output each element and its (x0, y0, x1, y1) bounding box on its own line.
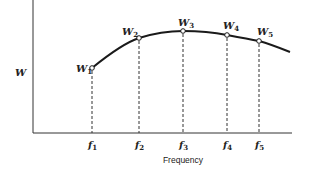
data-point (257, 39, 262, 44)
data-point (181, 29, 186, 34)
point-label: W3 (178, 17, 194, 30)
frequency-tick-label: f5 (254, 139, 264, 152)
point-label: W1 (76, 63, 92, 76)
point-label: W4 (223, 20, 239, 33)
frequency-tick-label: f3 (178, 139, 188, 152)
frequency-tick-label: f1 (87, 139, 97, 152)
y-axis-label: W (15, 67, 28, 78)
x-axis-label: Frequency (163, 155, 204, 165)
data-point (225, 33, 230, 38)
point-label: W5 (257, 26, 273, 39)
frequency-tick-label: f4 (222, 139, 232, 152)
frequency-tick-label: f2 (134, 139, 144, 152)
point-label: W2 (122, 26, 138, 39)
frequency-weight-diagram: W1f1W2f2W3f3W4f4W5f5 W Frequency (0, 0, 312, 176)
